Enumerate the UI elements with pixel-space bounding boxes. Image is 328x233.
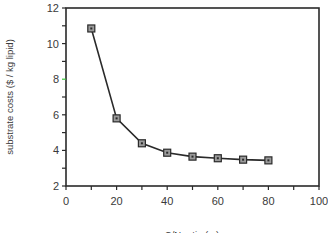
x-axis-ticks: 020406080100 <box>63 186 328 207</box>
x-tick-label: 20 <box>110 195 122 207</box>
y-tick-label: 12 <box>47 2 59 14</box>
marker-center <box>90 27 92 29</box>
x-tick-label: 40 <box>161 195 173 207</box>
y-axis-label: substrate costs ($ / kg lipid) <box>4 39 15 155</box>
marker-center <box>267 159 269 161</box>
x-tick-label: 0 <box>63 195 69 207</box>
marker-center <box>141 142 143 144</box>
x-axis-label: C/N ratio (...) <box>165 229 219 233</box>
marker-center <box>192 156 194 158</box>
line-chart: 020406080100 24681012 substrate costs ($… <box>0 0 328 233</box>
data-series <box>88 25 272 164</box>
x-tick-label: 100 <box>310 195 328 207</box>
y-tick-label: 4 <box>53 144 59 156</box>
marker-center <box>242 159 244 161</box>
marker-center <box>116 117 118 119</box>
marker-center <box>166 152 168 154</box>
y-tick-label: 6 <box>53 109 59 121</box>
y-axis-ticks: 24681012 <box>47 2 66 192</box>
y-tick-label: 2 <box>53 180 59 192</box>
series-line <box>91 28 268 160</box>
x-tick-label: 60 <box>212 195 224 207</box>
y-tick-label: 8 <box>53 73 59 85</box>
y-tick-label: 10 <box>47 38 59 50</box>
marker-center <box>217 157 219 159</box>
x-tick-label: 80 <box>262 195 274 207</box>
